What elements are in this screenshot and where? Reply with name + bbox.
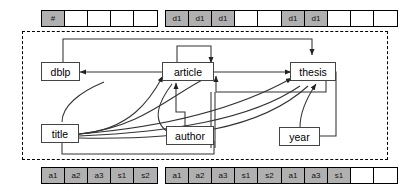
- slot-cell: [374, 168, 397, 183]
- slot-cell: a3: [88, 168, 111, 183]
- node-year[interactable]: year: [279, 127, 320, 146]
- slot-cell: [88, 11, 111, 26]
- slot-cell: #: [42, 11, 65, 26]
- node-title-label: title: [52, 128, 68, 140]
- slot-cell: d1: [189, 11, 212, 26]
- node-dblp[interactable]: dblp: [41, 62, 80, 81]
- slot-cell: s1: [111, 168, 134, 183]
- strip-bottom-left: a1a2a3s1s2: [41, 167, 158, 184]
- slot-cell: s1: [328, 168, 351, 183]
- slot-cell: a2: [189, 168, 212, 183]
- slot-cell: d1: [166, 11, 189, 26]
- strip-top-right: d1d1: [281, 10, 398, 27]
- slot-cell: s2: [134, 168, 157, 183]
- slot-cell: [351, 168, 374, 183]
- slot-cell: [134, 11, 157, 26]
- slot-cell: a1: [166, 168, 189, 183]
- node-author[interactable]: author: [166, 126, 214, 145]
- strip-top-middle: d1d1d1: [165, 10, 282, 27]
- slot-cell: [65, 11, 88, 26]
- slot-cell: s2: [258, 168, 281, 183]
- node-author-label: author: [175, 130, 205, 142]
- slot-cell: a3: [305, 168, 328, 183]
- node-year-label: year: [289, 131, 309, 143]
- node-thesis[interactable]: thesis: [290, 62, 336, 81]
- slot-cell: [258, 11, 281, 26]
- diagram-canvas: # d1d1d1 d1d1: [0, 0, 411, 191]
- node-title[interactable]: title: [41, 124, 79, 143]
- node-article-label: article: [174, 66, 202, 78]
- slot-cell: [328, 11, 351, 26]
- slot-cell: a1: [42, 168, 65, 183]
- strip-top-left: #: [41, 10, 158, 27]
- slot-cell: [374, 11, 397, 26]
- node-article[interactable]: article: [162, 62, 214, 81]
- slot-cell: d1: [212, 11, 235, 26]
- slot-cell: s1: [235, 168, 258, 183]
- slot-cell: d1: [282, 11, 305, 26]
- node-dblp-label: dblp: [51, 66, 71, 78]
- slot-cell: [235, 11, 258, 26]
- slot-cell: d1: [305, 11, 328, 26]
- slot-cell: [111, 11, 134, 26]
- slot-cell: [351, 11, 374, 26]
- strip-bottom-middle: a1a2a3s1s2: [165, 167, 282, 184]
- slot-cell: a2: [65, 168, 88, 183]
- slot-cell: a1: [282, 168, 305, 183]
- node-thesis-label: thesis: [299, 66, 326, 78]
- strip-bottom-right: a1a3s1: [281, 167, 398, 184]
- slot-cell: a3: [212, 168, 235, 183]
